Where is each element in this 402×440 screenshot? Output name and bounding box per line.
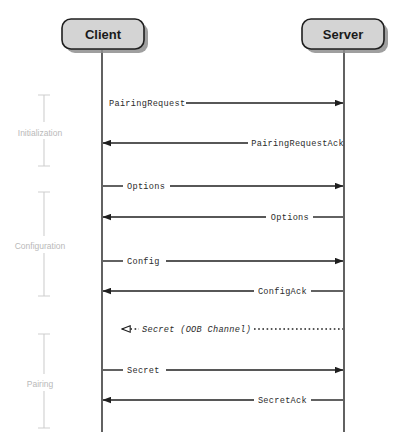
sequence-diagram-canvas: Client Server Initialization Configurati… (0, 0, 402, 440)
message-label-options-request: Options (127, 182, 165, 192)
client-box-label: Client (85, 27, 122, 42)
participant-server[interactable]: Server (302, 19, 388, 53)
message-pairing-request[interactable]: PairingRequest (109, 99, 343, 109)
phase-label-configuration: Configuration (15, 241, 66, 251)
message-label-config-ack: ConfigAck (258, 287, 307, 297)
message-label-secret-request: Secret (127, 366, 160, 376)
phase-pairing: Pairing (27, 334, 54, 428)
phase-label-pairing: Pairing (27, 379, 54, 389)
message-secret-oob[interactable]: Secret (OOB Channel) (122, 325, 343, 335)
message-options-response[interactable]: Options (103, 213, 343, 223)
message-label-config-request: Config (127, 257, 160, 267)
message-config-ack[interactable]: ConfigAck (103, 287, 343, 297)
message-label-pairing-request-ack: PairingRequestAck (251, 139, 344, 149)
message-secret-request[interactable]: Secret (103, 366, 343, 376)
message-secret-ack[interactable]: SecretAck (103, 396, 343, 406)
message-config-request[interactable]: Config (103, 257, 343, 267)
phase-configuration: Configuration (15, 192, 66, 296)
message-options-request[interactable]: Options (103, 182, 343, 192)
participant-client[interactable]: Client (62, 19, 148, 53)
message-label-secret-oob: Secret (OOB Channel) (142, 325, 251, 335)
phase-initialization: Initialization (18, 95, 63, 166)
message-label-secret-ack: SecretAck (258, 396, 307, 406)
message-label-pairing-request: PairingRequest (109, 99, 185, 109)
message-pairing-request-ack[interactable]: PairingRequestAck (103, 139, 344, 149)
phase-label-initialization: Initialization (18, 128, 63, 138)
message-label-options-response: Options (271, 213, 309, 223)
server-box-label: Server (323, 27, 363, 42)
